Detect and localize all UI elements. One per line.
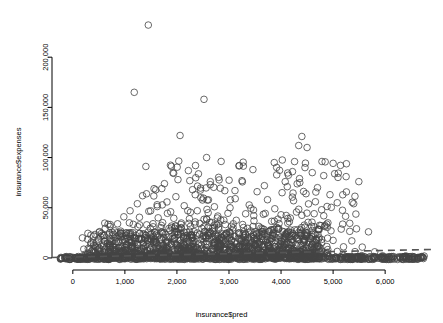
scatter-point xyxy=(271,205,278,212)
scatter-point xyxy=(134,200,141,207)
scatter-point xyxy=(177,132,184,139)
scatter-point xyxy=(185,167,192,174)
scatter-point xyxy=(192,162,199,169)
scatter-point xyxy=(136,214,143,221)
scatter-point xyxy=(151,193,158,200)
scatter-point xyxy=(218,158,225,165)
y-axis-tick-label: 50,000 xyxy=(41,196,50,219)
scatter-point xyxy=(126,220,133,227)
x-axis-title: insurance$pred xyxy=(0,310,443,319)
scatter-point xyxy=(290,190,297,197)
scatter-point xyxy=(279,157,286,164)
x-axis-tick-label: 3,000 xyxy=(220,277,239,286)
scatter-point xyxy=(365,229,372,236)
scatter-point xyxy=(296,179,303,186)
scatter-point xyxy=(264,196,271,203)
scatter-point xyxy=(291,158,298,165)
scatter-point xyxy=(353,226,360,233)
scatter-plot-figure: 01,0002,0003,0004,0005,0006,000050,00010… xyxy=(0,0,443,323)
scatter-point xyxy=(328,228,335,235)
scatter-point xyxy=(145,22,152,29)
scatter-point xyxy=(175,158,182,165)
scatter-point xyxy=(232,195,239,202)
scatter-point xyxy=(327,191,334,198)
scatter-point xyxy=(136,222,143,229)
scatter-point xyxy=(346,220,353,227)
scatter-point xyxy=(284,170,291,177)
x-axis-tick-label: 1,000 xyxy=(115,277,134,286)
scatter-point xyxy=(242,210,249,217)
scatter-point xyxy=(181,202,188,209)
scatter-point xyxy=(337,162,344,169)
scatter-point xyxy=(121,213,128,220)
scatter-point xyxy=(226,177,233,184)
y-axis-title-text: insurance$expenses xyxy=(14,127,23,196)
scatter-point xyxy=(143,163,150,170)
scatter-point xyxy=(342,213,349,220)
scatter-point xyxy=(254,188,261,195)
scatter-point xyxy=(343,173,350,180)
y-axis-tick-label: 0 xyxy=(41,256,50,260)
scatter-point xyxy=(151,185,158,192)
scatter-point xyxy=(359,244,366,251)
scatter-point xyxy=(114,221,121,228)
scatter-point xyxy=(227,197,234,204)
scatter-point xyxy=(155,215,162,222)
scatter-point xyxy=(314,184,321,191)
scatter-point xyxy=(201,224,208,231)
scatter-point xyxy=(250,166,257,173)
y-axis-tick-label: 100,000 xyxy=(41,144,50,171)
scatter-point xyxy=(131,89,138,96)
scatter-point xyxy=(232,187,239,194)
scatter-point xyxy=(305,201,312,208)
scatter-point xyxy=(343,160,350,167)
scatter-point xyxy=(201,96,208,103)
scatter-point xyxy=(356,178,363,185)
scatter-point xyxy=(211,203,218,210)
scatter-point xyxy=(261,182,268,189)
plot-canvas: 01,0002,0003,0004,0005,0006,000050,00010… xyxy=(0,0,443,323)
scatter-point xyxy=(302,164,309,171)
scatter-point xyxy=(279,189,286,196)
x-axis-tick-label: 5,000 xyxy=(324,277,343,286)
scatter-point xyxy=(189,186,196,193)
scatter-point xyxy=(143,190,150,197)
scatter-point xyxy=(289,168,296,175)
scatter-point xyxy=(311,210,318,217)
scatter-point xyxy=(186,216,193,223)
y-axis-title: insurance$expenses xyxy=(14,93,23,162)
scatter-point xyxy=(353,211,360,218)
y-axis-tick-label: 200,000 xyxy=(41,44,50,71)
x-axis-tick-label: 4,000 xyxy=(272,277,291,286)
scatter-point xyxy=(240,159,247,166)
scatter-point xyxy=(139,192,146,199)
y-axis-tick-label: 150,000 xyxy=(41,94,50,121)
scatter-point xyxy=(320,212,327,219)
scatter-point xyxy=(309,169,316,176)
scatter-point xyxy=(304,144,311,151)
scatter-point xyxy=(320,172,327,179)
scatter-point xyxy=(318,206,325,213)
scatter-point xyxy=(127,207,134,214)
scatter-point xyxy=(203,154,210,161)
scatter-point xyxy=(334,199,341,206)
scatter-point xyxy=(349,199,356,206)
x-axis-tick-label: 0 xyxy=(71,277,75,286)
scatter-point xyxy=(330,160,337,167)
scatter-point xyxy=(340,244,347,251)
scatter-point xyxy=(339,207,346,214)
scatter-point xyxy=(290,197,297,204)
scatter-point xyxy=(349,238,356,245)
scatter-point xyxy=(330,237,337,244)
scatter-point xyxy=(313,189,320,196)
scatter-point xyxy=(173,193,180,200)
scatter-point xyxy=(194,207,201,214)
x-axis-tick-label: 2,000 xyxy=(168,277,187,286)
scatter-point xyxy=(352,193,359,200)
scatter-point xyxy=(175,176,182,183)
scatter-point xyxy=(346,228,353,235)
scatter-point xyxy=(299,133,306,140)
scatter-point xyxy=(312,198,319,205)
scatter-point xyxy=(225,210,232,217)
scatter-point xyxy=(295,142,302,149)
